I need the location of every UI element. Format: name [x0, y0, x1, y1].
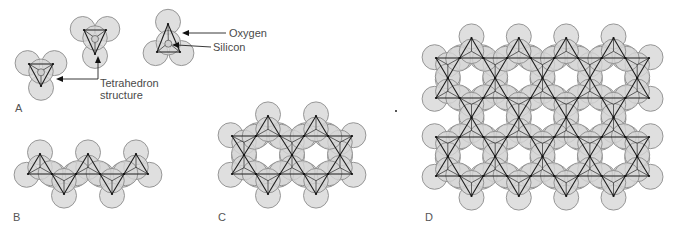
vertex-dot — [518, 37, 520, 39]
vertex-dot — [518, 116, 520, 118]
vertex-dot — [577, 175, 579, 177]
vertex-dot — [530, 97, 532, 99]
vertex-dot — [459, 97, 461, 99]
vertex-dot — [624, 136, 626, 138]
vertex-dot — [459, 57, 461, 59]
vertex-dot — [156, 51, 158, 53]
panel-label-d: D — [425, 211, 433, 223]
vertex-dot — [267, 193, 269, 195]
panel-label-b: B — [13, 211, 20, 223]
vertex-dot — [123, 173, 125, 175]
vertex-dot — [94, 53, 96, 55]
vertex-dot — [303, 173, 305, 175]
vertex-dot — [327, 135, 329, 137]
vertex-dot — [315, 193, 317, 195]
vertex-dot — [518, 195, 520, 197]
vertex-dot — [530, 175, 532, 177]
vertex-dot — [624, 175, 626, 177]
vertex-dot — [648, 136, 650, 138]
vertex-dot — [494, 77, 496, 79]
vertex-dot — [506, 175, 508, 177]
vertex-dot — [636, 155, 638, 157]
vertex-dot — [601, 136, 603, 138]
vertex-dot — [612, 116, 614, 118]
vertex-dot — [482, 57, 484, 59]
tetrahedron-label-line2: structure — [100, 89, 143, 101]
vertex-dot — [167, 23, 169, 25]
structure-d-sheet — [422, 24, 663, 210]
vertex-dot — [279, 173, 281, 175]
vertex-dot — [482, 97, 484, 99]
vertex-dot — [147, 173, 149, 175]
vertex-dot — [601, 57, 603, 59]
vertex-dot — [447, 77, 449, 79]
vertex-dot — [624, 97, 626, 99]
vertex-dot — [506, 136, 508, 138]
vertex-dot — [612, 37, 614, 39]
vertex-dot — [315, 115, 317, 117]
silicon-atom — [165, 40, 172, 47]
vertex-dot — [506, 97, 508, 99]
vertex-dot — [589, 155, 591, 157]
vertex-dot — [470, 195, 472, 197]
panel-label-c: C — [218, 211, 226, 223]
vertex-dot — [83, 29, 85, 31]
vertex-dot — [589, 77, 591, 79]
vertex-dot — [601, 97, 603, 99]
silicate-structures-diagram: A B C D Oxygen Silicon Tetrahedron struc… — [0, 0, 675, 233]
vertex-dot — [565, 37, 567, 39]
tetrahedron-left-arrowhead-icon — [56, 76, 63, 82]
vertex-dot — [506, 57, 508, 59]
silicon-atom — [92, 36, 99, 43]
silicon-atom — [38, 69, 45, 76]
oxygen-label: Oxygen — [229, 27, 267, 39]
vertex-dot — [459, 136, 461, 138]
structure-b-single-chain — [14, 140, 162, 208]
vertex-dot — [255, 173, 257, 175]
oxygen-pointer: Oxygen — [182, 27, 267, 39]
vertex-dot — [565, 195, 567, 197]
vertex-dot — [553, 136, 555, 138]
vertex-dot — [648, 175, 650, 177]
vertex-dot — [231, 173, 233, 175]
vertex-dot — [601, 175, 603, 177]
vertex-dot — [494, 155, 496, 157]
tetrahedron-pointer: Tetrahedron structure — [56, 56, 159, 101]
vertex-dot — [75, 173, 77, 175]
panel-label-a: A — [15, 102, 23, 114]
vertex-dot — [435, 136, 437, 138]
vertex-dot — [39, 153, 41, 155]
vertex-dot — [267, 115, 269, 117]
vertex-dot — [577, 97, 579, 99]
vertex-dot — [99, 173, 101, 175]
vertex-dot — [435, 97, 437, 99]
vertex-dot — [648, 57, 650, 59]
vertex-dot — [447, 155, 449, 157]
vertex-dot — [339, 154, 341, 156]
vertex-dot — [27, 173, 29, 175]
silicon-label: Silicon — [213, 41, 245, 53]
vertex-dot — [179, 51, 181, 53]
vertex-dot — [255, 135, 257, 137]
stray-dot — [395, 110, 397, 112]
vertex-dot — [459, 175, 461, 177]
vertex-dot — [40, 85, 42, 87]
vertex-dot — [577, 57, 579, 59]
tetrahedron-label-line1: Tetrahedron — [100, 77, 159, 89]
vertex-dot — [28, 63, 30, 65]
vertex-dot — [482, 136, 484, 138]
vertex-dot — [470, 116, 472, 118]
oxygen-atoms — [422, 24, 663, 210]
vertex-dot — [351, 173, 353, 175]
vertex-dot — [565, 116, 567, 118]
vertex-dot — [541, 77, 543, 79]
vertex-dot — [577, 136, 579, 138]
vertex-dot — [435, 57, 437, 59]
vertex-dot — [51, 173, 53, 175]
vertex-dot — [530, 136, 532, 138]
vertex-dot — [553, 175, 555, 177]
vertex-dot — [63, 193, 65, 195]
vertex-dot — [636, 77, 638, 79]
vertex-dot — [553, 57, 555, 59]
vertex-dot — [648, 97, 650, 99]
